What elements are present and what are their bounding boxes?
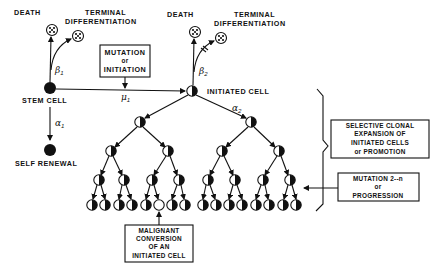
stem-cell-icon: [44, 82, 56, 94]
stem-death-cell-icon: [47, 25, 58, 36]
stem-terminal-cell-icon: [73, 31, 84, 42]
initiated-cell-icon: [187, 86, 197, 96]
tree-leaf-cell: [114, 200, 124, 210]
stem-death-arrow: [50, 37, 51, 82]
initiated-death-label: DEATH: [167, 10, 194, 19]
tree-leaf-cell: [167, 200, 177, 210]
clonal-tree: [87, 95, 301, 210]
malignant-box-line1: MALIGNANT: [138, 227, 179, 234]
brace-icon: [316, 89, 328, 211]
clonal-box-line2: EXPANSION OF: [354, 130, 405, 137]
clonal-box-line4: or PROMOTION: [354, 148, 405, 155]
tree-cell: [106, 146, 116, 156]
tree-cell: [258, 175, 268, 185]
stem-terminal-label-2: DIFFERENTIATION: [65, 17, 137, 26]
mutation-box-line2: or: [122, 57, 129, 64]
initiated-terminal-label-1: TERMINAL: [234, 10, 275, 19]
tree-cell: [135, 117, 145, 127]
tree-cell: [203, 175, 213, 185]
initiated-terminal-label-2: DIFFERENTIATION: [214, 19, 286, 28]
malignant-box-line3: OF AN: [148, 243, 169, 250]
clonal-box-line1: SELECTIVE CLONAL: [346, 122, 415, 129]
stem-terminal-arrow: [51, 39, 71, 70]
tree-cell: [217, 146, 227, 156]
malignant-box-line4: INITIATED CELL: [132, 252, 185, 259]
tree-leaf-cell: [87, 200, 97, 210]
clonal-box-line3: INITIATED CELLS: [351, 139, 409, 146]
clonal-expansion-group: SELECTIVE CLONAL EXPANSION OF INITIATED …: [331, 120, 429, 158]
progression-box-line1: MUTATION 2--n: [353, 175, 403, 182]
tree-cell: [285, 175, 295, 185]
tree-leaf-cell: [224, 200, 234, 210]
mutation-box-line1: MUTATION: [105, 48, 146, 57]
stem-to-initiated-arrow: [56, 89, 185, 91]
beta1-symbol: β1: [54, 65, 64, 76]
mutation-box-line3: INITIATION: [104, 65, 146, 74]
tree-cell: [163, 146, 173, 156]
tree-cell: [246, 117, 256, 127]
self-renewal-cell-icon: [44, 144, 56, 156]
tree-leaf-cell: [211, 200, 221, 210]
tree-cell: [174, 175, 184, 185]
tree-leaf-cell: [291, 200, 301, 210]
tree-leaf-cell: [278, 200, 288, 210]
progression-group: MUTATION 2--n or PROGRESSION: [304, 173, 419, 201]
initiated-death-cell-icon: [190, 27, 201, 38]
tree-leaf-cell: [198, 200, 208, 210]
tree-leaf-cell: [264, 200, 274, 210]
tree-cell: [147, 175, 157, 185]
initiated-cell-label: INITIATED CELL: [207, 87, 269, 96]
initiated-death-arrow: [193, 39, 194, 85]
progression-box-line2: or: [375, 183, 382, 190]
mutation-initiation-group: MUTATION or INITIATION μ1: [56, 45, 185, 103]
malignant-cell-icon: [154, 200, 164, 210]
tree-leaf-cell: [251, 200, 261, 210]
mu1-symbol: μ1: [121, 92, 130, 103]
self-renewal-label: SELF RENEWAL: [15, 159, 77, 168]
stem-cell-label: STEM CELL: [22, 96, 67, 105]
initiated-cell-group: DEATH TERMINAL DIFFERENTIATION β2 INITIA…: [167, 10, 286, 114]
tree-leaf-cell: [237, 200, 247, 210]
malignant-box-line2: CONVERSION: [136, 235, 182, 242]
tree-leaf-cell: [180, 200, 190, 210]
stem-terminal-label-1: TERMINAL: [85, 8, 126, 17]
alpha1-symbol: α1: [55, 118, 64, 129]
carcinogenesis-diagram: DEATH TERMINAL DIFFERENTIATION β1 STEM C…: [0, 0, 443, 277]
beta2-symbol: β2: [198, 66, 208, 77]
progression-box-line3: PROGRESSION: [353, 192, 404, 199]
malignant-conversion-group: MALIGNANT CONVERSION OF AN INITIATED CEL…: [125, 212, 193, 262]
tree-cell: [94, 175, 104, 185]
tree-leaf-cell: [100, 200, 110, 210]
initiated-terminal-cell-icon: [216, 33, 227, 44]
tree-cell: [119, 175, 129, 185]
stem-death-label: DEATH: [14, 8, 41, 17]
tree-leaf-cell: [127, 200, 137, 210]
tree-leaf-cell: [141, 200, 151, 210]
tree-cell: [274, 146, 284, 156]
tree-cell: [230, 175, 240, 185]
